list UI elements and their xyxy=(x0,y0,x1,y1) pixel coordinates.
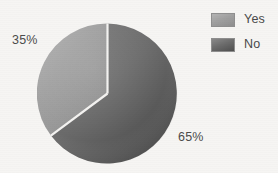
legend-label-yes: Yes xyxy=(244,13,265,26)
legend-item-yes[interactable]: Yes xyxy=(211,11,265,28)
data-label-yes-percent: 35% xyxy=(12,33,38,47)
pie-chart-svg xyxy=(37,23,178,164)
chart-legend: Yes No xyxy=(211,11,265,61)
legend-swatch-icon-no xyxy=(211,38,235,52)
pie-chart-figure: 35% 65% Yes No xyxy=(0,0,278,173)
data-label-no-percent: 65% xyxy=(178,130,204,144)
pie-chart-plot-area xyxy=(37,23,178,164)
legend-swatch-icon-yes xyxy=(211,13,235,27)
legend-label-no: No xyxy=(244,38,260,51)
legend-item-no[interactable]: No xyxy=(211,36,265,53)
